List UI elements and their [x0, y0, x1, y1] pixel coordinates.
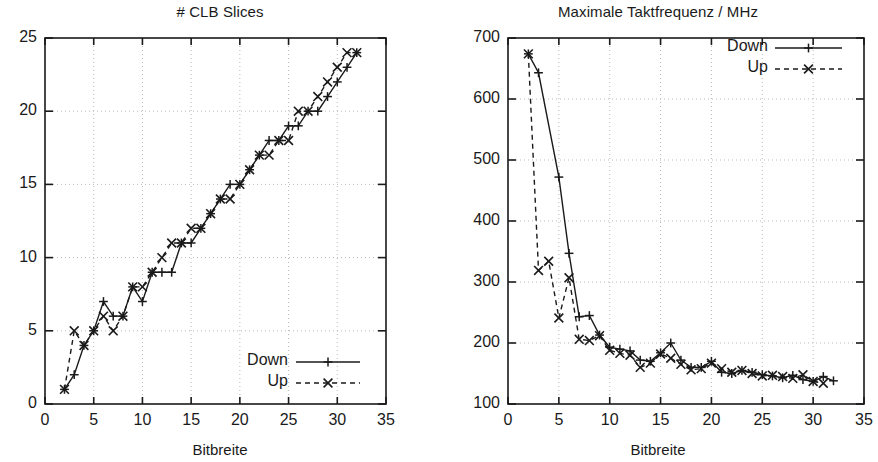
y-tick-label: 20 [0, 101, 37, 119]
series-line-up [528, 54, 823, 383]
y-tick-label: 200 [442, 333, 500, 351]
x-tick-label: 10 [122, 411, 162, 429]
series-down [524, 49, 838, 385]
chart-panel-max-clock-frequency: Maximale Taktfrequenz / MHz Bitbreite 10… [438, 0, 878, 462]
x-tick-label: 25 [742, 411, 782, 429]
y-tick-label: 600 [442, 89, 500, 107]
series-up [60, 48, 361, 394]
x-tick-label: 20 [220, 411, 260, 429]
series-line-up [64, 53, 356, 390]
legend-label-down: Down [198, 351, 288, 369]
y-tick-label: 500 [442, 150, 500, 168]
y-tick-label: 0 [0, 394, 37, 412]
tick-marks [508, 38, 864, 404]
y-tick-label: 700 [442, 28, 500, 46]
legend-label-up: Up [678, 58, 768, 76]
x-axis-label-left: Bitbreite [0, 441, 440, 458]
x-tick-label: 0 [488, 411, 528, 429]
x-tick-label: 5 [74, 411, 114, 429]
x-tick-label: 15 [641, 411, 681, 429]
plot-area-left [0, 0, 440, 462]
series-down [60, 48, 361, 394]
x-tick-label: 15 [171, 411, 211, 429]
x-tick-label: 10 [590, 411, 630, 429]
plot-border [45, 38, 386, 404]
plot-border [508, 38, 864, 404]
plot-area-right [438, 0, 878, 462]
y-tick-label: 10 [0, 248, 37, 266]
y-tick-label: 300 [442, 272, 500, 290]
y-tick-label: 5 [0, 321, 37, 339]
series-line-down [528, 54, 833, 382]
tick-marks [45, 38, 386, 404]
x-tick-label: 25 [269, 411, 309, 429]
figure-two-gnuplot-charts: # CLB Slices Bitbreite 05101520250510152… [0, 0, 878, 462]
y-tick-label: 15 [0, 174, 37, 192]
x-tick-label: 0 [25, 411, 65, 429]
grid-lines [45, 38, 386, 404]
legend-label-down: Down [678, 37, 768, 55]
y-tick-label: 100 [442, 394, 500, 412]
x-tick-label: 35 [366, 411, 406, 429]
x-tick-label: 30 [793, 411, 833, 429]
x-tick-label: 30 [317, 411, 357, 429]
grid-lines [508, 38, 864, 404]
x-tick-label: 20 [691, 411, 731, 429]
y-tick-label: 400 [442, 211, 500, 229]
legend-label-up: Up [198, 372, 288, 390]
x-tick-label: 5 [539, 411, 579, 429]
legend [296, 358, 360, 388]
chart-panel-clb-slices: # CLB Slices Bitbreite 05101520250510152… [0, 0, 440, 462]
x-tick-label: 35 [844, 411, 878, 429]
x-axis-label-right: Bitbreite [438, 441, 878, 458]
y-tick-label: 25 [0, 28, 37, 46]
legend [775, 44, 842, 74]
